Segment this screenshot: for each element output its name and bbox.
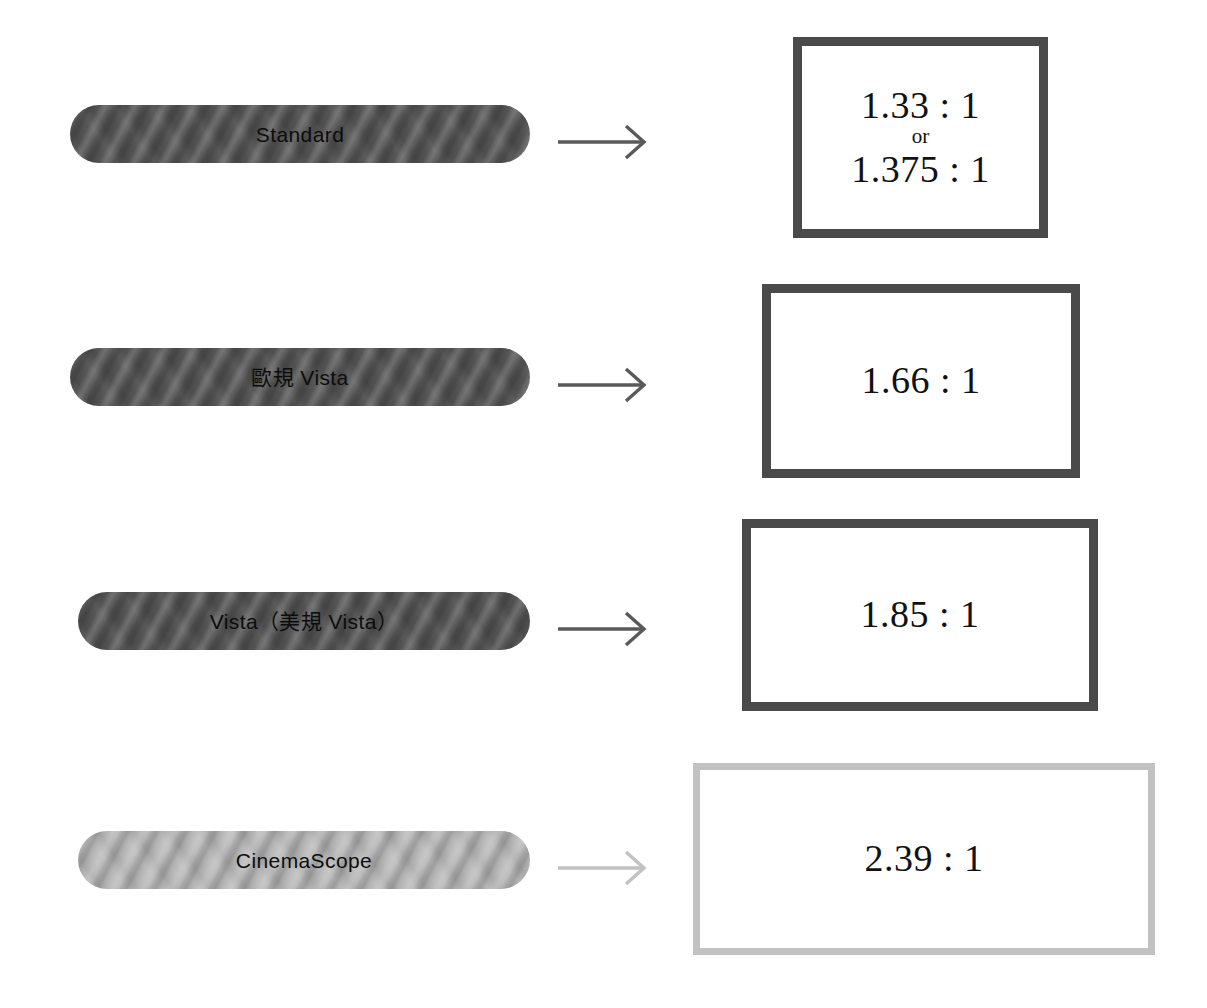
- diagram-row-euro-vista: 歐規 Vista 1.66 : 1: [0, 252, 1207, 492]
- ratio-frame-content: 2.39 : 1: [864, 839, 983, 879]
- ratio-primary-value: 1.66 : 1: [861, 361, 980, 401]
- right-arrow-icon: [556, 120, 654, 164]
- format-pill-euro-vista[interactable]: 歐規 Vista: [70, 348, 530, 406]
- ratio-primary-value: 1.85 : 1: [860, 595, 979, 635]
- ratio-frame-standard: 1.33 : 1 or 1.375 : 1: [793, 37, 1048, 238]
- ratio-primary-value: 2.39 : 1: [864, 839, 983, 879]
- ratio-frame-cinemascope: 2.39 : 1: [693, 763, 1155, 955]
- diagram-row-standard: Standard 1.33 : 1 or 1.375 : 1: [0, 0, 1207, 252]
- right-arrow-icon: [556, 607, 654, 651]
- ratio-primary-value: 1.33 : 1: [861, 86, 980, 126]
- ratio-frame-content: 1.66 : 1: [861, 361, 980, 401]
- right-arrow-icon: [556, 846, 654, 890]
- format-pill-label: Vista（美規 Vista）: [210, 611, 398, 632]
- ratio-secondary-value: 1.375 : 1: [851, 150, 990, 190]
- ratio-frame-vista: 1.85 : 1: [742, 519, 1098, 711]
- ratio-frame-euro-vista: 1.66 : 1: [762, 284, 1080, 478]
- format-pill-vista[interactable]: Vista（美規 Vista）: [78, 592, 530, 650]
- aspect-ratio-diagram: Standard 1.33 : 1 or 1.375 : 1 歐規 Vista …: [0, 0, 1207, 1008]
- diagram-row-cinemascope: CinemaScope 2.39 : 1: [0, 732, 1207, 1008]
- right-arrow-icon: [556, 363, 654, 407]
- format-pill-label: 歐規 Vista: [251, 367, 348, 388]
- format-pill-label: Standard: [256, 124, 344, 145]
- diagram-row-vista: Vista（美規 Vista） 1.85 : 1: [0, 492, 1207, 732]
- format-pill-label: CinemaScope: [236, 850, 372, 871]
- ratio-frame-content: 1.85 : 1: [860, 595, 979, 635]
- format-pill-standard[interactable]: Standard: [70, 105, 530, 163]
- format-pill-cinemascope[interactable]: CinemaScope: [78, 831, 530, 889]
- ratio-connector-label: or: [912, 126, 930, 148]
- ratio-frame-content: 1.33 : 1 or 1.375 : 1: [851, 86, 990, 190]
